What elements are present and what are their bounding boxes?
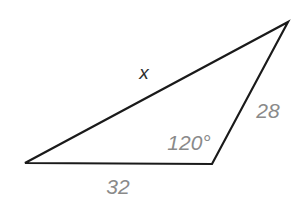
triangle-outline <box>25 22 288 164</box>
triangle-figure: x 28 120° 32 <box>0 0 308 205</box>
side-label-32: 32 <box>106 176 129 197</box>
angle-label-120: 120° <box>167 132 210 153</box>
side-label-x: x <box>139 63 149 82</box>
side-label-28: 28 <box>256 100 279 121</box>
